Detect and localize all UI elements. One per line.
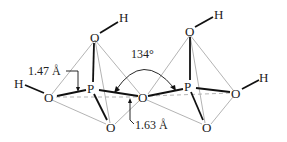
atom-right-top-H: H xyxy=(214,7,223,22)
atom-left-bottom-O: O xyxy=(106,120,115,135)
angle-arc xyxy=(116,69,174,90)
diagram-canvas: O H P O H O O O H P O H O 1.47 Å 1.63 Å … xyxy=(0,0,287,142)
atom-left-top-O: O xyxy=(90,30,99,45)
atom-bridge-O: O xyxy=(138,90,147,105)
atom-right-O: O xyxy=(231,86,240,101)
atom-right-P: P xyxy=(184,79,191,94)
label-bridge-angle: 134° xyxy=(131,47,154,61)
atom-left-P: P xyxy=(87,81,94,96)
label-terminal-bond-length: 1.47 Å xyxy=(28,64,61,78)
arrowhead-icon xyxy=(128,98,132,103)
atom-right-H: H xyxy=(259,70,268,85)
atom-right-bottom-O: O xyxy=(202,120,211,135)
label-bridging-bond-length: 1.63 Å xyxy=(135,118,168,132)
atom-right-top-O: O xyxy=(185,24,194,39)
atom-left-O: O xyxy=(44,90,53,105)
atom-left-H: H xyxy=(14,76,23,91)
atom-left-top-H: H xyxy=(119,10,128,25)
pyrophosphate-diagram: O H P O H O O O H P O H O 1.47 Å 1.63 Å … xyxy=(0,0,287,142)
